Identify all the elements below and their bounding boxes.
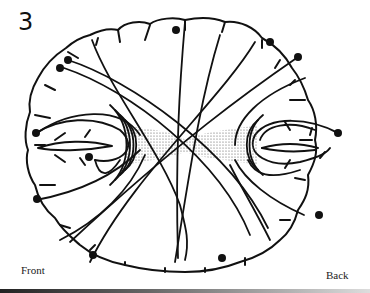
front-label: Front <box>21 264 45 276</box>
back-label: Back <box>326 269 349 281</box>
brain-diagram <box>0 0 370 293</box>
bottom-border <box>0 289 370 293</box>
